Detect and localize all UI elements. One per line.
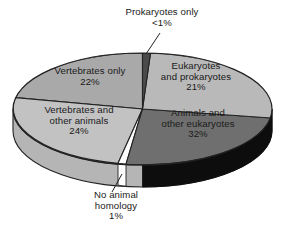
leader-line-prokaryotes-only [146, 33, 160, 54]
pie-chart-graphic [0, 0, 285, 238]
slice-eukaryotes-prokaryotes [143, 53, 273, 118]
pie-chart: Prokaryotes only <1% Eukaryotes and prok… [0, 0, 285, 238]
